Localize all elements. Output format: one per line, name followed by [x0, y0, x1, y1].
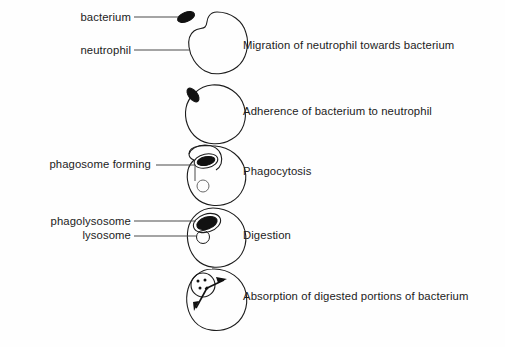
label-phagolysosome: phagolysosome — [0, 216, 131, 227]
bacterium-shape-stage-2 — [185, 86, 202, 104]
phagocytosis-figure: bacterium neutrophil phagosome forming p… — [0, 0, 505, 347]
fragment-dot — [197, 280, 200, 283]
stage-2-group — [185, 85, 246, 144]
stage-3-group — [156, 145, 246, 205]
stage-caption-1: Migration of neutrophil towards bacteriu… — [243, 40, 454, 51]
label-phagosome-forming: phagosome forming — [0, 159, 151, 170]
lysosome-shape-stage-3 — [197, 180, 209, 192]
stage-caption-5: Absorption of digested portions of bacte… — [243, 291, 468, 302]
absorption-arrow-lower-left — [193, 288, 207, 311]
absorption-arrow-upper-right — [205, 277, 227, 289]
fragment-dot — [204, 279, 207, 282]
residual-vacuole-stage-5 — [191, 273, 215, 297]
bacterium-shape-stage-1 — [176, 9, 196, 24]
stage-5-group — [187, 269, 247, 330]
neutrophil-outline-stage-3 — [187, 146, 245, 206]
label-neutrophil: neutrophil — [0, 45, 131, 56]
stage-caption-3: Phagocytosis — [243, 166, 311, 177]
label-lysosome: lysosome — [0, 230, 131, 241]
bacterium-shape-stage-3 — [196, 155, 215, 167]
stage-4-group — [134, 208, 246, 267]
neutrophil-outline-stage-1 — [189, 12, 248, 74]
stage-caption-2: Adherence of bacterium to neutrophil — [243, 106, 432, 117]
stage-1-group — [134, 9, 248, 73]
fragment-dot — [199, 287, 202, 290]
label-bacterium: bacterium — [0, 12, 131, 23]
stage-caption-4: Digestion — [243, 230, 291, 241]
